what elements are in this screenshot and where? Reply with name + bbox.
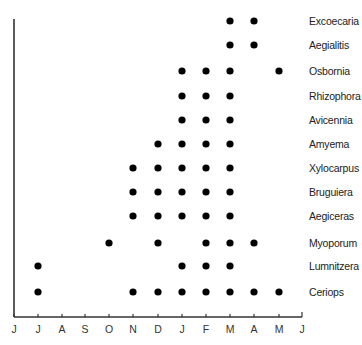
data-point bbox=[202, 212, 209, 219]
month-label: A bbox=[250, 323, 257, 335]
data-point bbox=[154, 239, 161, 246]
data-point bbox=[129, 188, 136, 195]
data-point bbox=[202, 92, 209, 99]
data-point bbox=[154, 140, 161, 147]
data-point bbox=[250, 41, 257, 48]
month-label: F bbox=[203, 323, 209, 335]
data-point bbox=[226, 92, 233, 99]
data-point bbox=[202, 164, 209, 171]
species-label: Bruguiera bbox=[309, 186, 353, 198]
data-point bbox=[226, 41, 233, 48]
data-point bbox=[202, 140, 209, 147]
data-point bbox=[226, 164, 233, 171]
data-point bbox=[226, 288, 233, 295]
data-point bbox=[250, 17, 257, 24]
data-point bbox=[202, 239, 209, 246]
data-point bbox=[178, 116, 185, 123]
data-point bbox=[226, 140, 233, 147]
species-label: Amyema bbox=[309, 138, 350, 150]
species-label: Excoecaria bbox=[309, 15, 359, 27]
data-point bbox=[250, 239, 257, 246]
data-point bbox=[226, 188, 233, 195]
data-point bbox=[226, 239, 233, 246]
data-point bbox=[202, 67, 209, 74]
data-point bbox=[226, 262, 233, 269]
data-point bbox=[178, 188, 185, 195]
species-label: Osbornia bbox=[309, 65, 350, 77]
species-label: Avicennia bbox=[309, 114, 353, 126]
species-labels: ExcoecariaAegialitisOsborniaRhizophoraAv… bbox=[309, 15, 361, 298]
data-point bbox=[202, 288, 209, 295]
month-label: J bbox=[299, 323, 304, 335]
data-point bbox=[226, 17, 233, 24]
data-point bbox=[178, 164, 185, 171]
month-label: D bbox=[154, 323, 162, 335]
x-axis-month-labels: JJASONDJFMAMJ bbox=[11, 323, 304, 335]
data-point bbox=[178, 262, 185, 269]
data-point bbox=[275, 67, 282, 74]
data-point bbox=[202, 116, 209, 123]
month-label: J bbox=[35, 323, 40, 335]
data-point bbox=[178, 67, 185, 74]
data-point bbox=[202, 262, 209, 269]
species-label: Ceriops bbox=[309, 286, 344, 298]
month-label: J bbox=[179, 323, 184, 335]
data-points bbox=[34, 17, 282, 295]
species-label: Aegiceras bbox=[309, 210, 354, 222]
species-label: Aegialitis bbox=[309, 39, 349, 51]
data-point bbox=[129, 212, 136, 219]
species-label: Xylocarpus bbox=[309, 162, 359, 174]
data-point bbox=[226, 67, 233, 74]
month-label: M bbox=[275, 323, 284, 335]
data-point bbox=[34, 262, 41, 269]
data-point bbox=[250, 288, 257, 295]
data-point bbox=[226, 212, 233, 219]
month-label: S bbox=[81, 323, 88, 335]
data-point bbox=[105, 239, 112, 246]
data-point bbox=[178, 212, 185, 219]
month-label: J bbox=[11, 323, 16, 335]
species-label: Myoporum bbox=[309, 237, 357, 249]
data-point bbox=[154, 188, 161, 195]
data-point bbox=[129, 288, 136, 295]
species-label: Lumnitzera bbox=[309, 260, 359, 272]
data-point bbox=[154, 212, 161, 219]
data-point bbox=[178, 92, 185, 99]
data-point bbox=[202, 188, 209, 195]
species-label: Rhizophora bbox=[309, 90, 361, 102]
data-point bbox=[275, 288, 282, 295]
data-point bbox=[154, 164, 161, 171]
data-point bbox=[178, 140, 185, 147]
data-point bbox=[34, 288, 41, 295]
data-point bbox=[178, 288, 185, 295]
data-point bbox=[226, 116, 233, 123]
flowering-phenology-chart: ExcoecariaAegialitisOsborniaRhizophoraAv… bbox=[0, 0, 362, 345]
data-point bbox=[154, 288, 161, 295]
data-point bbox=[129, 164, 136, 171]
month-label: A bbox=[58, 323, 65, 335]
month-label: O bbox=[105, 323, 113, 335]
month-label: M bbox=[226, 323, 235, 335]
month-label: N bbox=[129, 323, 137, 335]
